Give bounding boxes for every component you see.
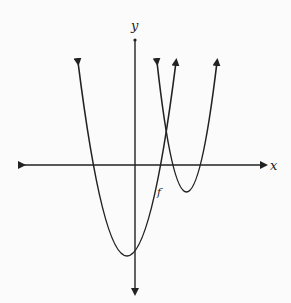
- curve-label-f: f: [156, 186, 163, 199]
- small-parabola: [157, 62, 217, 192]
- x-axis-label: x: [270, 158, 278, 173]
- y-axis-top-dot: [133, 38, 136, 41]
- y-axis-label: y: [130, 18, 139, 33]
- coordinate-diagram: y x f: [0, 0, 291, 303]
- large-parabola: [78, 62, 176, 256]
